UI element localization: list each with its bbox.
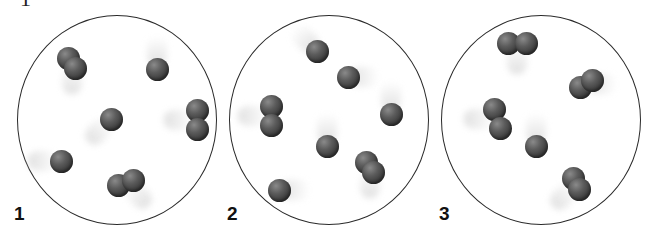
monatomic-particle — [525, 135, 548, 158]
monatomic-particle — [268, 179, 291, 202]
panel-label-2: 2 — [227, 203, 238, 225]
monatomic-particle — [337, 66, 360, 89]
diatomic-molecule-atom — [489, 117, 512, 140]
diatomic-molecule-atom — [568, 178, 591, 201]
cropped-text-fragment: 1 — [20, 0, 31, 12]
diatomic-molecule-atom — [515, 32, 538, 55]
monatomic-particle — [306, 40, 329, 63]
diatomic-molecule-atom — [122, 169, 145, 192]
monatomic-particle — [380, 103, 403, 126]
monatomic-particle — [316, 135, 339, 158]
diatomic-molecule-atom — [362, 161, 385, 184]
diatomic-molecule-atom — [581, 69, 604, 92]
monatomic-particle — [146, 58, 169, 81]
diatomic-molecule-atom — [260, 114, 283, 137]
panel-label-1: 1 — [14, 203, 25, 225]
panel-label-3: 3 — [439, 203, 450, 225]
diatomic-molecule-atom — [64, 57, 87, 80]
monatomic-particle — [100, 108, 123, 131]
monatomic-particle — [50, 150, 73, 173]
diatomic-molecule-atom — [186, 118, 209, 141]
